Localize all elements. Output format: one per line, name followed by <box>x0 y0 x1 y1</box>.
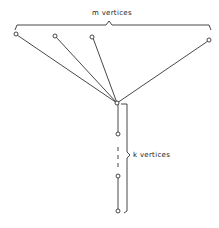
m-vertices-label: m vertices <box>92 9 132 17</box>
vertex <box>90 35 94 39</box>
edge <box>93 38 117 103</box>
k-vertices-label: k vertices <box>133 151 170 159</box>
edge <box>117 41 208 103</box>
graph-svg <box>0 0 219 228</box>
vertex <box>207 38 211 42</box>
vertex <box>14 32 18 36</box>
vertex <box>116 132 120 136</box>
vertex <box>116 174 120 178</box>
graph-diagram: m vertices k vertices <box>0 0 219 228</box>
side-brace <box>121 104 130 213</box>
edge <box>56 37 117 103</box>
edge <box>17 35 117 103</box>
vertex <box>53 34 57 38</box>
hub-vertex <box>115 101 119 105</box>
vertex <box>116 209 120 213</box>
top-brace <box>15 21 211 30</box>
